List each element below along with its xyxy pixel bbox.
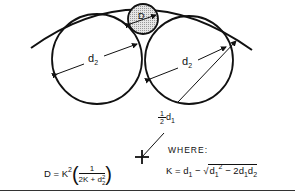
label-left-d2: d2 (88, 52, 98, 66)
where-label: WHERE: (168, 145, 208, 155)
label-D: D (138, 11, 145, 21)
label-right-d2: d2 (182, 55, 192, 69)
label-half-d1: 12d1 (158, 110, 175, 125)
formula-K: K = d1 − √d12 − 2d1d2 (166, 163, 257, 178)
bottom-rule (0, 190, 295, 191)
formula-D: D = K2(12K + d22) (44, 163, 112, 186)
